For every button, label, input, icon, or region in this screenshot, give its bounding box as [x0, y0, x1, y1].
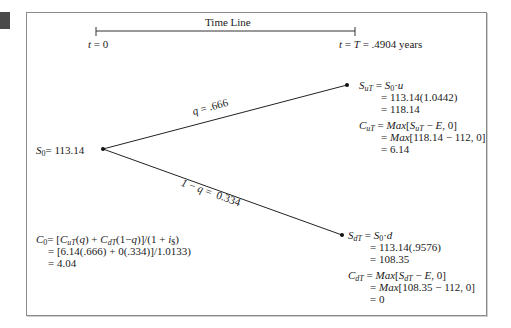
root-node — [101, 147, 105, 151]
up-node — [345, 83, 349, 87]
call-valuation-calc: C0= [CuT(q) + CdT(1−q)]/(1 + i$) = [6.14… — [36, 233, 191, 269]
up-stock-calc: SuT = S0·u = 113.14(1.0442) = 118.14 — [359, 79, 457, 115]
down-call-calc: CdT = Max[SdT − E, 0] = Max[108.35 − 112… — [348, 269, 475, 305]
timeline-title: Time Line — [205, 16, 251, 28]
down-stock-calc: SdT = S0·d = 113.14(.9576) = 108.35 — [348, 229, 441, 265]
down-node — [340, 233, 344, 237]
timeline-start-label: t = 0 — [88, 38, 108, 50]
timeline-end-label: t = T = .4904 years — [339, 38, 422, 50]
up-branch — [103, 85, 347, 149]
root-price-label: S0= 113.14 — [36, 144, 84, 156]
up-call-calc: CuT = Max[SuT − E, 0] = Max[118.14 − 112… — [359, 119, 485, 155]
